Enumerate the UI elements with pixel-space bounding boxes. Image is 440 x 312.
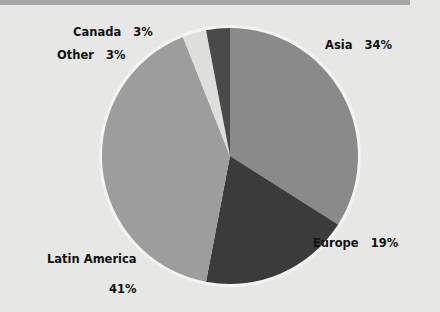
slice-label-asia: Asia 34% bbox=[325, 38, 392, 53]
slice-label-latin-america-name: Latin America bbox=[47, 252, 137, 266]
slice-label-latin-america: Latin America 41% bbox=[31, 237, 137, 312]
slice-label-other: Other 3% bbox=[57, 48, 125, 63]
slice-label-latin-america-percent: 41% bbox=[31, 282, 137, 297]
slice-label-canada: Canada 3% bbox=[73, 25, 153, 40]
chart-canvas: GLOBAL MARKET Canada 3% Other 3% Asia 34… bbox=[0, 0, 440, 312]
slice-label-europe: Europe 19% bbox=[313, 236, 398, 251]
